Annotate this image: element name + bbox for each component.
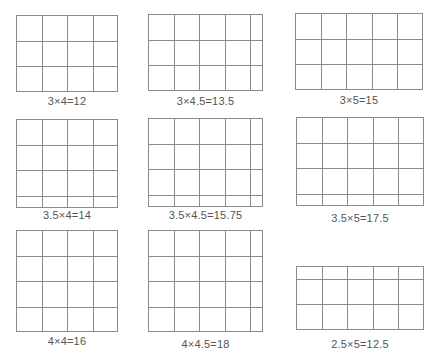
grid-column-line [225,15,226,90]
grid-label-3x4: 3×4=12 [48,95,87,107]
grid-row-line [17,41,117,42]
grid-row-line [149,281,262,282]
grid-column-line [347,118,348,205]
grid-column-line [372,14,373,89]
grid-label-3x4.5: 3×4.5=13.5 [177,95,235,107]
grid-row-line [149,169,262,170]
grid-column-line [174,15,175,90]
grid-row-line [17,66,117,67]
grid-row-line [17,170,117,171]
grid-label-4x4.5: 4×4.5=18 [181,338,229,350]
grid-row-line [17,145,117,146]
grid-row-line [149,307,262,308]
grid-column-line [93,120,94,207]
grid-row-line [17,256,117,257]
grid-column-line [250,15,251,90]
grid-column-line [67,120,68,207]
grid-g2 [148,14,263,91]
grid-column-line [67,16,68,91]
grid-g8 [148,230,263,332]
grid-row-line [17,307,117,308]
grid-column-line [250,119,251,206]
grid-label-3.5x5: 3.5×5=17.5 [331,212,389,224]
grid-g9 [296,266,424,330]
grid-label-3.5x4: 3.5×4=14 [43,209,91,221]
grid-row-line [149,195,262,196]
grid-row-line [297,279,423,280]
grid-label-2.5x5: 2.5×5=12.5 [331,338,389,350]
grid-g5 [148,118,263,207]
grid-column-line [174,119,175,206]
grid-column-line [346,14,347,89]
grid-column-line [321,14,322,89]
grid-g3 [295,13,423,90]
grid-row-line [297,304,423,305]
grid-row-line [149,40,262,41]
grid-g6 [296,117,424,206]
grid-row-line [296,39,422,40]
grid-column-line [225,119,226,206]
grid-column-line [397,14,398,89]
grid-column-line [398,118,399,205]
grid-column-line [322,267,323,329]
grid-row-line [297,143,423,144]
grid-row-line [17,196,117,197]
grid-column-line [398,267,399,329]
grid-column-line [373,267,374,329]
grid-column-line [347,267,348,329]
grid-column-line [93,16,94,91]
grid-row-line [297,168,423,169]
grid-column-line [373,118,374,205]
grid-label-3.5x4.5: 3.5×4.5=15.75 [169,209,243,221]
grid-column-line [42,120,43,207]
grid-column-line [322,118,323,205]
grid-label-4x4: 4×4=16 [48,335,87,347]
grid-row-line [297,194,423,195]
grid-g1 [16,15,118,92]
grid-column-line [42,16,43,91]
grid-row-line [17,281,117,282]
grid-row-line [149,65,262,66]
grid-row-line [149,144,262,145]
grid-row-line [149,256,262,257]
grid-column-line [199,15,200,90]
grid-g7 [16,230,118,332]
grid-g4 [16,119,118,208]
grid-column-line [199,119,200,206]
grid-row-line [296,64,422,65]
grid-label-3x5: 3×5=15 [340,94,379,106]
